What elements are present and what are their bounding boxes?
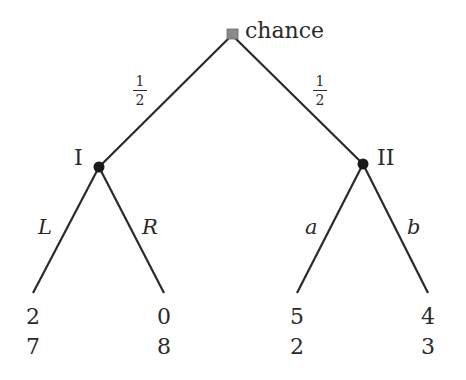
edge-chance-to-II (232, 35, 363, 164)
action-R-label: R (142, 217, 158, 238)
fraction-bar (133, 90, 147, 91)
payoff-a-player1: 5 (285, 306, 309, 328)
payoff-R-player1: 0 (152, 306, 176, 328)
action-L-label: L (38, 217, 52, 238)
chance-label: chance (245, 20, 324, 42)
prob-left-denominator: 2 (133, 93, 147, 107)
payoff-L-player2: 7 (21, 336, 45, 358)
edge-chance-to-I (99, 35, 232, 167)
payoff-b-player2: 3 (416, 336, 440, 358)
chance-node-square (227, 29, 238, 39)
payoff-R-player2: 8 (152, 336, 176, 358)
action-b-label: b (407, 217, 420, 238)
prob-fraction-left: 1 2 (133, 74, 147, 107)
fraction-bar (313, 90, 327, 91)
prob-left-numerator: 1 (133, 74, 147, 89)
decision-node-II (358, 159, 369, 170)
prob-fraction-right: 1 2 (313, 74, 327, 107)
payoff-L-player1: 2 (21, 306, 45, 328)
payoff-a-player2: 2 (285, 336, 309, 358)
prob-right-numerator: 1 (313, 74, 327, 89)
action-a-label: a (305, 217, 318, 238)
decision-node-I (94, 162, 105, 173)
player-II-label: II (377, 147, 394, 169)
player-I-label: I (74, 147, 83, 169)
prob-right-denominator: 2 (313, 93, 327, 107)
game-tree-canvas (0, 0, 466, 380)
payoff-b-player1: 4 (416, 306, 440, 328)
